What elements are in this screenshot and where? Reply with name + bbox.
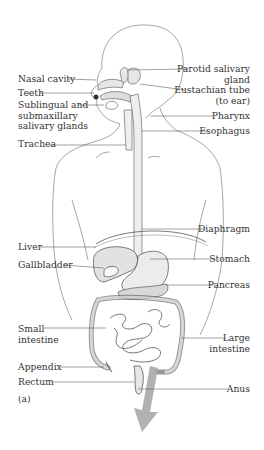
label-small-intestine: Small intestine bbox=[18, 324, 59, 345]
label-parotid-line-1: Parotid salivary bbox=[177, 64, 250, 75]
label-appendix: Appendix bbox=[18, 362, 62, 373]
label-nasal-cavity: Nasal cavity bbox=[18, 74, 75, 85]
label-stomach: Stomach bbox=[209, 254, 250, 265]
small-intestine bbox=[110, 310, 170, 362]
label-teeth: Teeth bbox=[18, 88, 44, 99]
label-parotid: Parotid salivary gland bbox=[177, 64, 250, 85]
label-rectum: Rectum bbox=[18, 377, 54, 388]
digestive-system-diagram: Nasal cavity Teeth Sublingual and submax… bbox=[0, 0, 264, 450]
torso-outline bbox=[53, 140, 100, 320]
label-trachea: Trachea bbox=[18, 139, 56, 150]
label-eustachian-line-2: (to ear) bbox=[174, 96, 250, 107]
label-small-intestine-line-2: intestine bbox=[18, 335, 59, 346]
label-pancreas: Pancreas bbox=[208, 280, 250, 291]
label-small-intestine-line-1: Small bbox=[18, 324, 59, 335]
large-intestine bbox=[91, 297, 182, 372]
trachea bbox=[124, 110, 132, 150]
diaphragm bbox=[96, 231, 206, 244]
label-esophagus: Esophagus bbox=[199, 126, 250, 137]
label-anus: Anus bbox=[227, 384, 250, 395]
label-gallbladder: Gallbladder bbox=[18, 260, 73, 271]
label-eustachian-line-1: Eustachian tube bbox=[174, 85, 250, 96]
label-pharynx: Pharynx bbox=[212, 111, 250, 122]
label-large-intestine-line-1: Large bbox=[209, 333, 250, 344]
label-sublingual-line-1: Sublingual and bbox=[18, 100, 88, 111]
label-sublingual-line-3: salivary glands bbox=[18, 121, 88, 132]
label-diaphragm: Diaphragm bbox=[198, 224, 250, 235]
panel-label: (a) bbox=[18, 394, 31, 405]
label-liver: Liver bbox=[18, 242, 42, 253]
rectum bbox=[134, 366, 143, 394]
label-sublingual: Sublingual and submaxillary salivary gla… bbox=[18, 100, 88, 132]
label-large-intestine-line-2: intestine bbox=[209, 344, 250, 355]
label-eustachian: Eustachian tube (to ear) bbox=[174, 85, 250, 106]
label-large-intestine: Large intestine bbox=[209, 333, 250, 354]
